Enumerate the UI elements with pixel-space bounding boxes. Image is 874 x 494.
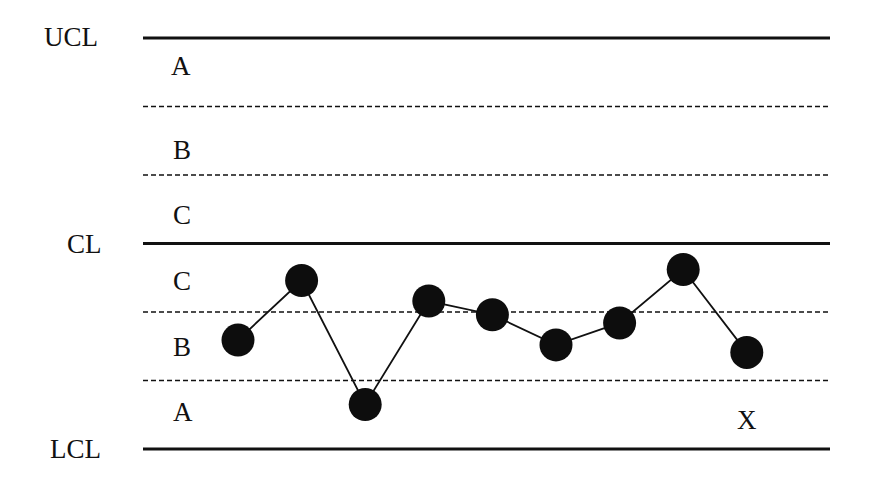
data-point [285,264,318,297]
zone-b-upper-label: B [173,137,191,164]
zone-a-lower-label: A [173,399,193,426]
zone-c-lower-label: C [173,268,191,295]
data-point [349,388,382,421]
x-marker-label: X [737,407,757,434]
lcl-label: LCL [50,436,101,463]
data-point [222,324,255,357]
zone-c-upper-label: C [173,202,191,229]
data-point [412,285,445,318]
data-point [603,306,636,339]
zone-b-lower-label: B [173,334,191,361]
cl-label: CL [67,231,102,258]
zone-a-upper-label: A [171,53,191,80]
data-point [476,298,509,331]
data-point [540,328,573,361]
ucl-label: UCL [44,24,98,51]
data-point [730,336,763,369]
data-point [667,253,700,286]
